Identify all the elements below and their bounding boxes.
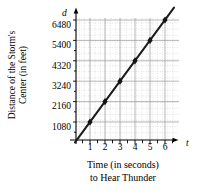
x-axis-variable-label: t <box>186 138 189 148</box>
minor-grid-horizontal <box>76 23 179 133</box>
x-tick-label-4: 4 <box>129 142 141 152</box>
plot-svg <box>54 4 184 154</box>
x-axis-title: Time (in seconds) to Hear Thunder <box>56 158 190 184</box>
chart-figure: Distance of the Storm's Center (in feet)… <box>0 0 199 195</box>
x-axis-tick-labels: 1 2 3 4 5 6 <box>76 142 186 156</box>
y-axis-title-line1: Distance of the Storm's <box>7 31 18 120</box>
x-axis-title-line2: to Hear Thunder <box>56 171 190 184</box>
y-axis-title-line2: Center (in feet) <box>18 31 29 120</box>
x-tick-label-1: 1 <box>84 142 96 152</box>
x-tick-label-5: 5 <box>144 142 156 152</box>
y-axis-arrow <box>74 8 79 14</box>
x-axis-title-line1: Time (in seconds) <box>56 158 190 171</box>
x-tick-label-6: 6 <box>159 142 171 152</box>
y-axis-title: Distance of the Storm's Center (in feet) <box>0 0 36 150</box>
plot-area <box>76 18 178 140</box>
x-tick-label-2: 2 <box>99 142 111 152</box>
x-tick-label-3: 3 <box>114 142 126 152</box>
